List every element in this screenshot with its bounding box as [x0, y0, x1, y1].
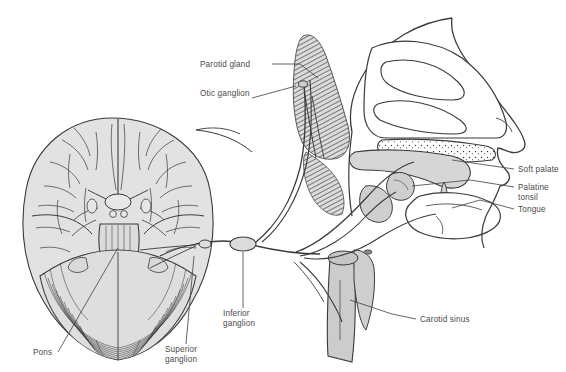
olfactory-bulb-left: [87, 199, 97, 213]
figure-page: hapter 18 / THE BRAIN AND THE CRANIAL NE…: [0, 0, 566, 372]
label-inferior-ganglion-line2: ganglion: [223, 319, 255, 328]
otic-ganglion: [299, 81, 308, 87]
label-palatine-tonsil-line1: Palatine: [518, 183, 549, 192]
olfactory-bulb-right: [141, 199, 151, 213]
optic-chiasm: [105, 194, 131, 210]
carotid-lumen: [364, 250, 372, 254]
inferior-ganglion: [230, 237, 256, 251]
anatomy-figure: Parotid gland Otic ganglion Soft palate …: [0, 0, 566, 372]
label-tongue: Tongue: [518, 205, 546, 214]
mammillary-body-left: [110, 211, 117, 218]
mammillary-body-right: [121, 211, 128, 218]
label-pons: Pons: [33, 348, 52, 357]
label-soft-palate: Soft palate: [518, 165, 559, 174]
superior-ganglion: [199, 240, 211, 248]
label-superior-ganglion-line2: ganglion: [165, 355, 197, 364]
label-otic-ganglion: Otic ganglion: [200, 89, 250, 98]
label-parotid-gland: Parotid gland: [200, 60, 250, 69]
label-carotid-sinus: Carotid sinus: [420, 315, 470, 324]
common-carotid-artery: [327, 258, 355, 362]
label-superior-ganglion-line1: Superior: [165, 345, 197, 354]
label-inferior-ganglion-line1: Inferior: [223, 309, 250, 318]
label-palatine-tonsil-line2: tonsil: [518, 193, 538, 202]
palatine-tonsil: [386, 172, 414, 200]
